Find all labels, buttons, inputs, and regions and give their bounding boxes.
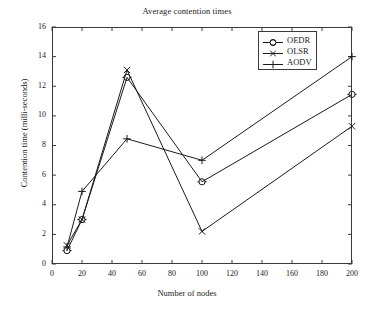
circle-marker-icon [262, 34, 284, 45]
data-point-marker [79, 216, 85, 222]
series-aodv [63, 53, 356, 251]
y-tick-label: 0 [20, 259, 46, 268]
legend-label: OLSR [284, 46, 309, 56]
series-line [67, 57, 352, 247]
data-point-marker [124, 67, 130, 73]
data-point-marker [348, 53, 356, 61]
x-marker-icon [262, 45, 284, 56]
chart-figure: Average contention times 0246810121416 0… [0, 0, 374, 315]
x-tick-label: 200 [339, 269, 365, 278]
data-point-marker [349, 123, 355, 129]
legend-label: OEDR [284, 35, 310, 45]
plus-marker-icon [262, 56, 284, 67]
x-tick-label: 140 [249, 269, 275, 278]
x-tick-label: 40 [99, 269, 125, 278]
series-line [67, 77, 352, 250]
x-tick-label: 120 [219, 269, 245, 278]
legend-item-olsr[interactable]: OLSR [262, 45, 312, 56]
plot-svg [0, 0, 374, 315]
x-axis-label: Number of nodes [0, 288, 374, 298]
series-olsr [64, 67, 355, 249]
legend-item-aodv[interactable]: AODV [262, 56, 312, 67]
chart-legend: OEDROLSRAODV [258, 31, 317, 70]
y-axis-label: Contention time (milli-seconds) [19, 23, 29, 243]
data-series-group [62, 53, 356, 254]
x-tick-label: 180 [309, 269, 335, 278]
x-tick-label: 0 [39, 269, 65, 278]
series-line [67, 70, 352, 246]
data-point-marker [199, 228, 205, 234]
x-tick-label: 80 [159, 269, 185, 278]
series-oedr [62, 74, 356, 254]
x-tick-label: 20 [69, 269, 95, 278]
x-tick-label: 100 [189, 269, 215, 278]
legend-label: AODV [284, 57, 312, 67]
x-tick-label: 160 [279, 269, 305, 278]
x-tick-label: 60 [129, 269, 155, 278]
data-point-marker [198, 157, 206, 165]
legend-item-oedr[interactable]: OEDR [262, 34, 312, 45]
